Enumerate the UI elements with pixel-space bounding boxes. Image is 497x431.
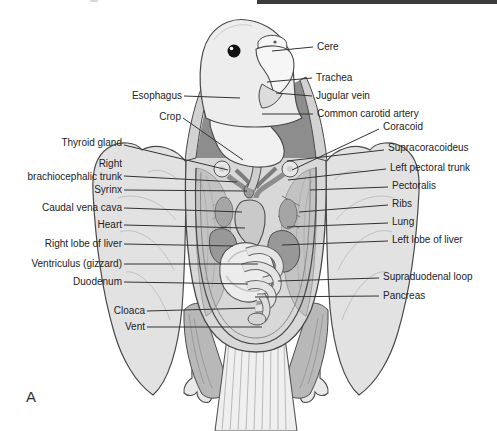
head (200, 20, 302, 127)
label-ribs: Ribs (392, 197, 412, 210)
label-duodenum: Duodenum (73, 275, 122, 288)
label-caudal-vena-cava: Caudal vena cava (42, 201, 122, 214)
label-trachea: Trachea (316, 71, 352, 84)
panel-letter: A (26, 388, 36, 405)
label-supraduodenal-loop: Supraduodenal loop (383, 270, 473, 283)
label-vent: Vent (125, 320, 145, 333)
label-lung: Lung (392, 215, 414, 228)
left-lung (279, 199, 297, 229)
label-jugular-vein: Jugular vein (316, 89, 370, 102)
figure-panel: EsophagusCropThyroid glandRight brachioc… (0, 0, 497, 431)
label-esophagus: Esophagus (132, 89, 182, 102)
bird-anatomy-illustration (0, 0, 497, 431)
label-cere: Cere (317, 40, 339, 53)
label-right-brachiocephalic-trunk: Right brachiocephalic trunk (28, 157, 123, 183)
label-supracoracoideus: Supracoracoideus (388, 141, 469, 154)
nostril (273, 40, 276, 43)
cloaca-organ (248, 313, 266, 325)
label-syrinx: Syrinx (94, 183, 122, 196)
label-coracoid: Coracoid (383, 120, 423, 133)
label-heart: Heart (98, 218, 122, 231)
label-right-lobe-of-liver: Right lobe of liver (45, 237, 122, 250)
label-crop: Crop (159, 110, 181, 123)
label-thyroid-gland: Thyroid gland (61, 136, 122, 149)
label-ventriculus-gizzard: Ventriculus (gizzard) (31, 257, 122, 270)
label-left-lobe-of-liver: Left lobe of liver (392, 233, 463, 246)
label-left-pectoral-trunk: Left pectoral trunk (390, 161, 470, 174)
label-cloaca: Cloaca (114, 304, 145, 317)
eye (228, 45, 241, 58)
label-pancreas: Pancreas (383, 289, 425, 302)
label-pectoralis: Pectoralis (392, 179, 436, 192)
label-common-carotid-artery: Common carotid artery (317, 107, 419, 120)
